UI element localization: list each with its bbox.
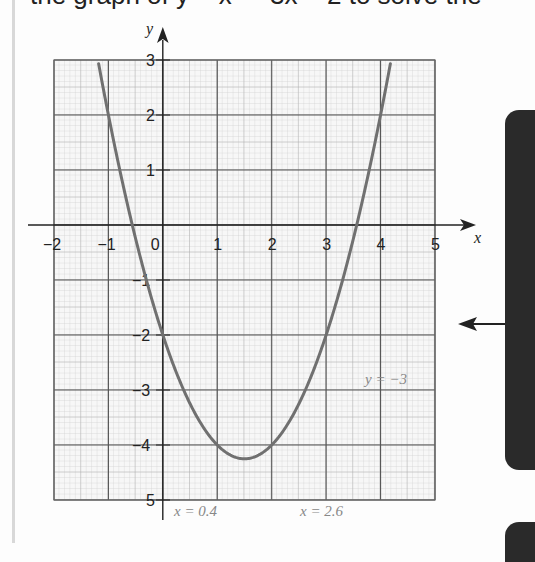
y-tick-label: −3 — [132, 382, 150, 399]
x-tick-label: 0 — [151, 236, 160, 253]
y-tick-label: −2 — [132, 327, 150, 344]
x-tick-label: 3 — [322, 236, 331, 253]
y-tick-label: 2 — [146, 107, 155, 124]
y-tick-label: −4 — [132, 437, 150, 454]
x-tick-label: 5 — [431, 236, 440, 253]
y-tick-label: 3 — [146, 52, 155, 69]
x-tick-label: −2 — [43, 236, 61, 253]
x-tick-label: −1 — [97, 236, 115, 253]
left-arrow-icon — [458, 317, 506, 331]
x-tick-label: 4 — [377, 236, 386, 253]
x-axis-label: x — [473, 229, 481, 246]
x-tick-label: 2 — [268, 236, 277, 253]
annotation-y-minus-3: y = −3 — [363, 371, 407, 387]
side-panel-tab-lower — [505, 522, 535, 562]
x-tick-label: 1 — [213, 236, 222, 253]
y-tick-label: 1 — [146, 162, 155, 179]
side-panel-tab — [505, 110, 535, 470]
y-tick-label: 5 — [146, 492, 155, 509]
annotation-x-0-4: x = 0.4 — [173, 503, 218, 519]
annotation-x-2-6: x = 2.6 — [299, 503, 344, 519]
y-axis-label: y — [144, 20, 154, 38]
